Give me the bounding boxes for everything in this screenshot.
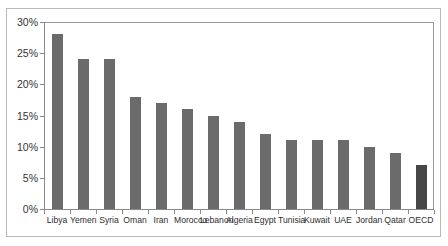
x-axis-tick-mark: [226, 210, 227, 214]
y-axis-tick-mark: [40, 147, 45, 148]
x-axis-tick-mark: [304, 210, 305, 214]
bar-slot: [226, 22, 252, 209]
x-axis-tick-label: Oman: [122, 215, 148, 226]
bar-slot: [148, 22, 174, 209]
x-axis-tick-label: Morocco: [174, 215, 200, 226]
x-axis-tick-mark: [330, 210, 331, 214]
y-axis-tick-mark: [40, 116, 45, 117]
bar-tunisia: [286, 140, 297, 209]
x-axis-tick-mark: [44, 210, 45, 214]
x-axis-tick-mark: [200, 210, 201, 214]
y-axis-tick-mark: [40, 53, 45, 54]
x-axis-tick-label: UAE: [330, 215, 356, 226]
bar-slot: [70, 22, 96, 209]
bar-libya: [52, 34, 63, 209]
bar-iran: [156, 103, 167, 209]
x-axis-tick-mark: [356, 210, 357, 214]
x-axis-tick-label: Qatar: [382, 215, 408, 226]
x-axis-tick-label: Kuwait: [304, 215, 330, 226]
x-axis-tick-mark: [434, 210, 435, 214]
bars-container: [44, 22, 434, 209]
y-axis-labels: 30%25%20%15%10%5%0%: [2, 0, 38, 246]
bar-yemen: [78, 59, 89, 209]
y-axis-tick-label: 5%: [2, 173, 38, 184]
bar-kuwait: [312, 140, 323, 209]
bar-algeria: [234, 122, 245, 209]
x-axis-tick-mark: [382, 210, 383, 214]
y-axis-tick-label: 15%: [2, 111, 38, 122]
x-axis-tick-label: Egypt: [252, 215, 278, 226]
y-axis-tick-label: 30%: [2, 17, 38, 28]
x-axis-tick-label: Algeria: [226, 215, 252, 226]
bar-jordan: [364, 147, 375, 209]
y-axis-tick-label: 10%: [2, 142, 38, 153]
bar-morocco: [182, 109, 193, 209]
x-axis-tick-mark: [278, 210, 279, 214]
plot-area: 30%25%20%15%10%5%0% LibyaYemenSyriaOmanI…: [0, 0, 448, 246]
x-axis-tick-label: Yemen: [70, 215, 96, 226]
bar-slot: [44, 22, 70, 209]
bar-oecd: [416, 165, 427, 209]
bar-lebanon: [208, 116, 219, 210]
x-axis-tick-mark: [408, 210, 409, 214]
x-axis-tick-label: Lebanon: [200, 215, 226, 226]
x-axis-tick-label: Iran: [148, 215, 174, 226]
bar-slot: [122, 22, 148, 209]
y-axis-tick-label: 20%: [2, 79, 38, 90]
x-axis-tick-mark: [252, 210, 253, 214]
x-axis-tick-mark: [148, 210, 149, 214]
bar-slot: [382, 22, 408, 209]
x-axis-tick-label: Syria: [96, 215, 122, 226]
chart-figure: 30%25%20%15%10%5%0% LibyaYemenSyriaOmanI…: [0, 0, 448, 246]
x-axis-tick-label: Tunisia: [278, 215, 304, 226]
x-axis-tick-mark: [122, 210, 123, 214]
y-axis-tick-mark: [40, 178, 45, 179]
bar-egypt: [260, 134, 271, 209]
bar-slot: [356, 22, 382, 209]
bar-slot: [278, 22, 304, 209]
bar-slot: [408, 22, 434, 209]
bar-syria: [104, 59, 115, 209]
bar-slot: [174, 22, 200, 209]
x-axis-tick-label: Jordan: [356, 215, 382, 226]
y-axis-tick-mark: [40, 22, 45, 23]
x-axis-tick-label: Libya: [44, 215, 70, 226]
bar-slot: [200, 22, 226, 209]
x-axis-tick-label: OECD: [408, 215, 434, 226]
bar-slot: [96, 22, 122, 209]
y-axis-tick-mark: [40, 84, 45, 85]
bar-uae: [338, 140, 349, 209]
x-axis-tick-mark: [70, 210, 71, 214]
y-axis-tick-label: 25%: [2, 48, 38, 59]
y-axis-tick-label: 0%: [2, 204, 38, 215]
bar-slot: [252, 22, 278, 209]
bar-slot: [330, 22, 356, 209]
x-axis-tick-mark: [174, 210, 175, 214]
bar-oman: [130, 97, 141, 209]
bar-qatar: [390, 153, 401, 209]
x-axis-labels: LibyaYemenSyriaOmanIranMoroccoLebanonAlg…: [44, 215, 434, 231]
x-axis-tick-mark: [96, 210, 97, 214]
x-axis-line: [44, 209, 434, 210]
bar-slot: [304, 22, 330, 209]
